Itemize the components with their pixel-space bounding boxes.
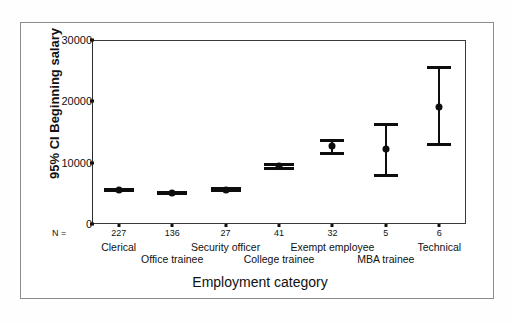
error-bar-cap-lower — [320, 152, 344, 155]
sample-size-value: 41 — [274, 228, 284, 238]
category-label: College trainee — [244, 253, 315, 265]
mean-marker — [382, 146, 389, 153]
chart-page: 95% CI Beginning salary 0100002000030000… — [0, 0, 511, 324]
error-bar-chart: 95% CI Beginning salary 0100002000030000… — [20, 22, 494, 299]
mean-marker — [169, 190, 176, 197]
x-axis-title: Employment category — [20, 274, 494, 290]
error-bar-cap-upper — [427, 66, 451, 69]
category-label: Technical — [417, 241, 461, 253]
n-prefix-label: N = — [52, 228, 66, 238]
x-tick-mark — [171, 224, 174, 227]
sample-size-value: 227 — [111, 228, 126, 238]
error-bar-cap-upper — [374, 123, 398, 126]
y-tick-label: 30000 — [20, 34, 98, 46]
category-label: Exempt employee — [290, 241, 374, 253]
x-tick-mark — [438, 224, 441, 227]
category-label: Office trainee — [141, 253, 203, 265]
sample-size-value: 6 — [437, 228, 442, 238]
sample-size-value: 32 — [327, 228, 337, 238]
mean-marker — [222, 186, 229, 193]
category-label: MBA trainee — [357, 253, 414, 265]
x-tick-mark — [331, 224, 334, 227]
error-bar-cap-lower — [427, 143, 451, 146]
sample-size-value: 136 — [165, 228, 180, 238]
x-tick-mark — [278, 224, 281, 227]
mean-marker — [276, 162, 283, 169]
category-label: Security officer — [191, 241, 260, 253]
category-label: Clerical — [101, 241, 136, 253]
sample-size-row: N = 22713627413256 — [20, 228, 494, 241]
mean-marker — [115, 187, 122, 194]
mean-marker — [329, 143, 336, 150]
y-tick-label: 20000 — [20, 95, 98, 107]
y-tick-label: 10000 — [20, 157, 98, 169]
x-axis-title-text: Employment category — [186, 274, 327, 290]
plot-area — [92, 40, 466, 224]
x-tick-mark — [224, 224, 227, 227]
sample-size-value: 27 — [221, 228, 231, 238]
sample-size-value: 5 — [383, 228, 388, 238]
x-tick-mark — [117, 224, 120, 227]
category-labels-row-2: Office traineeCollege traineeMBA trainee — [20, 253, 494, 267]
error-bar-cap-lower — [374, 174, 398, 177]
x-tick-mark — [384, 224, 387, 227]
mean-marker — [436, 103, 443, 110]
